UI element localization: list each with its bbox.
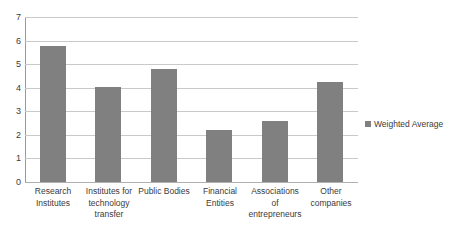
gridline	[25, 158, 358, 159]
y-axis-tick-labels: 76543210	[0, 17, 21, 182]
y-axis-tick-label: 2	[3, 131, 21, 140]
bar	[262, 121, 288, 182]
category-label-line: companies	[303, 198, 359, 210]
gridline	[25, 64, 358, 65]
category-label-line: Entities	[192, 198, 248, 210]
plot-area	[25, 17, 358, 182]
x-axis-category-label: Othercompanies	[303, 186, 359, 209]
category-label-line: technology	[81, 198, 137, 210]
y-axis-tick-label: 5	[3, 60, 21, 69]
category-label-line: Research	[25, 186, 81, 198]
gridline	[25, 111, 358, 112]
gridline	[25, 182, 358, 183]
gridline	[25, 88, 358, 89]
y-axis-tick-label: 0	[3, 178, 21, 187]
bar	[40, 46, 66, 182]
category-label-line: Financial	[192, 186, 248, 198]
x-axis-category-labels: ResearchInstitutesInstitutes fortechnolo…	[25, 186, 358, 238]
legend-swatch-icon	[365, 121, 371, 127]
category-label-line: entrepreneurs	[247, 209, 303, 221]
x-axis-category-label: ResearchInstitutes	[25, 186, 81, 209]
bar	[317, 82, 343, 182]
bar	[95, 87, 121, 182]
y-axis-tick-label: 6	[3, 37, 21, 46]
category-label-line: Other	[303, 186, 359, 198]
y-axis-tick-label: 3	[3, 107, 21, 116]
category-label-line: of	[247, 198, 303, 210]
bar-chart: 76543210 ResearchInstitutesInstitutes fo…	[0, 0, 458, 242]
category-label-line: Public Bodies	[136, 186, 192, 198]
y-axis-tick-label: 1	[3, 154, 21, 163]
category-label-line: Associations	[247, 186, 303, 198]
gridline	[25, 17, 358, 18]
x-axis-category-label: Institutes fortechnologytransfer	[81, 186, 137, 221]
bar	[206, 130, 232, 182]
legend: Weighted Average	[365, 119, 443, 129]
gridline	[25, 41, 358, 42]
gridline	[25, 135, 358, 136]
y-axis-tick-label: 4	[3, 84, 21, 93]
y-axis-tick-label: 7	[3, 13, 21, 22]
category-label-line: transfer	[81, 209, 137, 221]
x-axis-category-label: FinancialEntities	[192, 186, 248, 209]
category-label-line: Institutes for	[81, 186, 137, 198]
bar	[151, 69, 177, 182]
legend-label: Weighted Average	[374, 119, 443, 129]
x-axis-category-label: Public Bodies	[136, 186, 192, 198]
x-axis-category-label: Associationsofentrepreneurs	[247, 186, 303, 221]
category-label-line: Institutes	[25, 198, 81, 210]
